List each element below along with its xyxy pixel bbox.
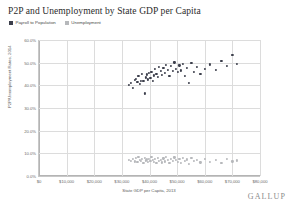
scatter-point-series-0	[172, 70, 174, 72]
scatter-point-series-1	[235, 159, 237, 161]
scatter-point-series-0	[209, 63, 211, 65]
scatter-point-series-0	[162, 67, 164, 69]
gridline-vertical	[122, 40, 123, 176]
scatter-point-series-1	[167, 159, 169, 161]
scatter-point-series-0	[177, 71, 179, 73]
x-axis-tick-label: $40,000	[142, 179, 157, 184]
scatter-point-series-0	[184, 75, 186, 77]
x-axis-tick-label: $50,000	[170, 179, 185, 184]
y-axis-tick-label: 40.0%	[24, 83, 36, 88]
scatter-point-series-1	[172, 160, 174, 162]
scatter-point-series-0	[226, 65, 228, 67]
y-axis-tick-label: 0.0%	[26, 174, 36, 179]
legend-label-p2p: Payroll to Population	[16, 20, 56, 25]
scatter-point-series-1	[220, 162, 222, 164]
gridline-vertical	[232, 40, 233, 176]
scatter-point-series-0	[168, 75, 170, 77]
scatter-point-series-1	[154, 158, 156, 160]
scatter-point-series-0	[146, 73, 148, 75]
scatter-point-series-1	[162, 157, 164, 159]
scatter-point-series-0	[150, 71, 152, 73]
scatter-point-series-1	[136, 161, 138, 163]
legend-swatch-p2p	[9, 21, 13, 25]
scatter-point-series-0	[161, 74, 163, 76]
x-axis-tick-label: $20,000	[87, 179, 102, 184]
scatter-point-series-0	[154, 68, 156, 70]
legend-item-p2p[interactable]: Payroll to Population	[9, 20, 56, 25]
legend-label-unemployment: Unemployment	[71, 20, 101, 25]
scatter-point-series-1	[178, 158, 180, 160]
legend-item-unemployment[interactable]: Unemployment	[65, 20, 101, 25]
scatter-point-series-0	[178, 64, 180, 66]
scatter-point-series-1	[193, 160, 195, 162]
scatter-point-series-1	[142, 162, 144, 164]
scatter-point-series-1	[180, 162, 182, 164]
scatter-point-series-0	[180, 69, 182, 71]
x-axis-tick-label: $60,000	[197, 179, 212, 184]
scatter-point-series-0	[190, 62, 192, 64]
chart-title: P2P and Unemployment by State GDP per Ca…	[8, 6, 201, 16]
scatter-point-series-0	[158, 66, 160, 68]
x-axis-tick-label: $70,000	[225, 179, 240, 184]
scatter-point-series-0	[130, 82, 132, 84]
scatter-point-series-0	[159, 70, 161, 72]
y-axis-tick-label: 60.0%	[24, 38, 36, 43]
gridline-vertical	[94, 40, 95, 176]
scatter-point-series-0	[142, 80, 144, 82]
scatter-point-series-0	[141, 72, 143, 74]
scatter-point-series-0	[135, 77, 137, 79]
gallup-logo: GALLUP	[248, 192, 286, 201]
scatter-point-series-0	[196, 66, 198, 68]
scatter-point-series-1	[164, 160, 166, 162]
scatter-point-series-1	[168, 162, 170, 164]
y-axis-tick-label: 20.0%	[24, 128, 36, 133]
scatter-point-series-0	[149, 77, 151, 79]
y-axis-tick-label: 10.0%	[24, 151, 36, 156]
scatter-point-series-1	[130, 159, 132, 161]
scatter-point-series-1	[150, 155, 152, 157]
gridline-vertical	[260, 40, 261, 176]
scatter-point-series-1	[215, 159, 217, 161]
scatter-point-series-0	[186, 67, 188, 69]
x-axis-tick-label: $10,000	[59, 179, 74, 184]
y-axis-title: P2P/Unemployment Rates, 2014	[7, 45, 12, 108]
scatter-point-series-0	[182, 63, 184, 65]
chart-container: P2P and Unemployment by State GDP per Ca…	[0, 0, 298, 207]
scatter-point-series-0	[143, 92, 145, 94]
scatter-point-series-0	[137, 75, 139, 77]
scatter-point-series-1	[196, 159, 198, 161]
plot-area: 0.0%10.0%20.0%30.0%40.0%50.0%60.0%$0$10,…	[38, 40, 260, 177]
scatter-point-series-0	[188, 82, 190, 84]
scatter-point-series-1	[226, 157, 228, 159]
scatter-point-series-0	[199, 73, 201, 75]
legend-swatch-unemployment	[65, 21, 69, 25]
chart-legend: Payroll to Population Unemployment	[9, 20, 101, 25]
gridline-vertical	[177, 40, 178, 176]
scatter-point-series-0	[132, 87, 134, 89]
scatter-point-series-1	[155, 162, 157, 164]
y-axis-tick-label: 50.0%	[24, 60, 36, 65]
scatter-point-series-1	[165, 156, 167, 158]
x-axis-title: State GDP per Capita, 2013	[38, 188, 260, 193]
scatter-point-series-1	[186, 158, 188, 160]
scatter-point-series-0	[170, 65, 172, 67]
scatter-point-series-0	[215, 69, 217, 71]
scatter-point-series-0	[167, 69, 169, 71]
scatter-point-series-1	[209, 161, 211, 163]
scatter-point-series-0	[157, 76, 159, 78]
scatter-point-series-0	[165, 64, 167, 66]
x-axis-tick-label: $0	[37, 179, 42, 184]
scatter-point-series-0	[151, 80, 153, 82]
y-axis-tick-label: 30.0%	[24, 106, 36, 111]
scatter-point-series-1	[137, 156, 139, 158]
x-axis-tick-label: $30,000	[114, 179, 129, 184]
scatter-point-series-1	[177, 161, 179, 163]
scatter-point-series-1	[190, 157, 192, 159]
scatter-point-series-0	[193, 71, 195, 73]
gridline-vertical	[205, 40, 206, 176]
scatter-point-series-1	[199, 161, 201, 163]
x-axis-tick-label: $80,000	[252, 179, 267, 184]
scatter-point-series-1	[188, 163, 190, 165]
gridline-vertical	[67, 40, 68, 176]
plot-wrapper: 0.0%10.0%20.0%30.0%40.0%50.0%60.0%$0$10,…	[38, 40, 260, 177]
